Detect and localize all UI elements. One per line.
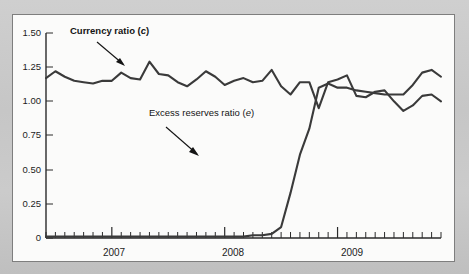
y-tick-label: 1.25	[23, 61, 42, 72]
figure-card: 1.50 1.25 1.00 0.75 0.50 0.25 0 2007 200…	[12, 14, 455, 262]
chart-plot-area: 1.50 1.25 1.00 0.75 0.50 0.25 0 2007 200…	[13, 15, 454, 261]
y-tick-label: 0.50	[23, 164, 42, 175]
annotation-currency-text: Currency ratio (	[70, 25, 142, 36]
y-axis-ticks	[46, 33, 53, 238]
annotation-currency-ratio-label: Currency ratio (c)	[70, 25, 149, 36]
annotation-currency-leader-arrow	[97, 42, 125, 66]
caption-strip	[0, 262, 469, 274]
annotation-excess-reserves-label: Excess reserves ratio (e)	[149, 107, 254, 118]
annotation-excess-text: Excess reserves ratio (	[149, 107, 246, 118]
line-chart-svg: 1.50 1.25 1.00 0.75 0.50 0.25 0 2007 200…	[13, 15, 455, 262]
annotation-excess-leader-arrow	[166, 127, 199, 156]
x-tick-label-2008: 2008	[222, 247, 245, 258]
y-tick-label: 0.25	[23, 198, 42, 209]
x-tick-label-2009: 2009	[341, 247, 364, 258]
y-tick-label: 1.50	[23, 27, 42, 38]
series-line-excess-reserves-ratio	[46, 70, 441, 237]
x-axis-tick-labels: 2007 2008 2009	[103, 247, 364, 258]
y-tick-label: 0	[36, 232, 41, 243]
annotation-currency-paren: )	[146, 25, 149, 36]
y-axis-tick-labels: 1.50 1.25 1.00 0.75 0.50 0.25 0	[23, 27, 42, 243]
annotation-excess-paren: )	[251, 107, 254, 118]
y-tick-label: 1.00	[23, 95, 42, 106]
y-tick-label: 0.75	[23, 129, 42, 140]
x-tick-label-2007: 2007	[103, 247, 126, 258]
series-line-currency-ratio	[46, 62, 441, 111]
